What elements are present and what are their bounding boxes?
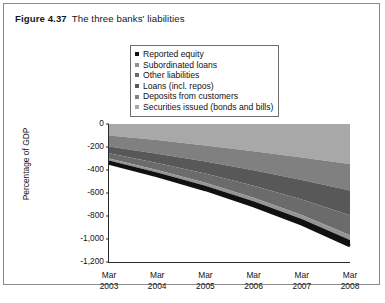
legend-item: Reported equity	[135, 49, 273, 60]
y-tick-label: -600	[66, 187, 104, 197]
x-tick-year: 2006	[231, 281, 277, 292]
legend-item: Securities issued (bonds and bills)	[135, 102, 273, 113]
legend-item-label: Other liabilities	[143, 70, 199, 81]
x-tick-label: Mar2008	[327, 270, 373, 292]
legend-item: Loans (incl. repos)	[135, 81, 273, 92]
legend-item-label: Deposits from customers	[143, 91, 238, 102]
x-tick-year: 2004	[134, 281, 180, 292]
x-tick-month: Mar	[279, 270, 325, 281]
legend-swatch-icon	[135, 73, 139, 77]
y-tick-label: -1,000	[66, 233, 104, 243]
y-tick-labels: 0-200-400-600-800-1,000-1,200	[62, 4, 104, 286]
y-tick-label: -1,200	[66, 256, 104, 266]
x-tick-label: Mar2007	[279, 270, 325, 292]
x-tick-year: 2008	[327, 281, 373, 292]
legend-item: Other liabilities	[135, 70, 273, 81]
footer-cut-text: ........ ... ......... ...... .. .......…	[6, 294, 155, 296]
legend-swatch-icon	[135, 63, 139, 67]
legend-item-label: Reported equity	[143, 49, 204, 60]
y-tick-label: -400	[66, 164, 104, 174]
y-tick-label: -800	[66, 210, 104, 220]
y-tick-label: 0	[66, 118, 104, 128]
legend-item-label: Subordinated loans	[143, 60, 217, 71]
legend-item: Deposits from customers	[135, 91, 273, 102]
x-tick-year: 2007	[279, 281, 325, 292]
legend-item-label: Securities issued (bonds and bills)	[143, 102, 273, 113]
x-tick-label: Mar2004	[134, 270, 180, 292]
figure-panel: Figure 4.37The three banks' liabilities …	[3, 3, 380, 285]
x-tick-label: Mar2005	[182, 270, 228, 292]
x-tick-month: Mar	[86, 270, 132, 281]
page-footer-sliver: ........ ... ......... ...... .. .......…	[0, 294, 385, 303]
legend-item: Subordinated loans	[135, 60, 273, 71]
x-tick-label: Mar2006	[231, 270, 277, 292]
x-tick-year: 2005	[182, 281, 228, 292]
x-tick-year: 2003	[86, 281, 132, 292]
x-tick-labels: Mar2003Mar2004Mar2005Mar2006Mar2007Mar20…	[4, 266, 381, 296]
x-tick-label: Mar2003	[86, 270, 132, 292]
area-bands	[109, 124, 350, 246]
x-tick-month: Mar	[134, 270, 180, 281]
x-tick-month: Mar	[182, 270, 228, 281]
x-tick-month: Mar	[327, 270, 373, 281]
chart-legend: Reported equitySubordinated loansOther l…	[130, 45, 279, 117]
legend-swatch-icon	[135, 95, 139, 99]
legend-swatch-icon	[135, 52, 139, 56]
x-tick-month: Mar	[231, 270, 277, 281]
legend-item-label: Loans (incl. repos)	[143, 81, 214, 92]
legend-swatch-icon	[135, 105, 139, 109]
legend-swatch-icon	[135, 84, 139, 88]
y-tick-label: -200	[66, 141, 104, 151]
